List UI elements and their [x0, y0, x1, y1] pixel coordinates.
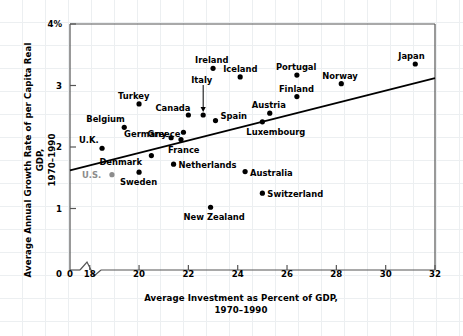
point-label-japan: Japan	[398, 51, 424, 61]
point-label-u-s: U.S.	[82, 170, 101, 180]
data-point-spain	[213, 118, 218, 123]
data-point-u-s	[109, 172, 114, 177]
y-tick-label-4: 4%	[36, 19, 62, 29]
point-label-switzerland: Switzerland	[267, 189, 323, 199]
x-tick-label-22: 22	[173, 269, 203, 279]
data-point-new-zealand	[208, 205, 213, 210]
point-label-portugal: Portugal	[276, 62, 317, 72]
x-axis-title-line1: Average Investment as Percent of GDP,	[96, 292, 386, 304]
point-label-sweden: Sweden	[120, 177, 157, 187]
data-point-australia	[243, 169, 248, 174]
point-label-greece: Greece	[147, 129, 180, 139]
x-axis-title-line2: 1970–1990	[96, 304, 386, 316]
point-label-luxembourg: Luxembourg	[246, 127, 305, 137]
point-label-australia: Australia	[250, 168, 293, 178]
data-point-switzerland	[260, 191, 265, 196]
data-point-japan	[413, 61, 418, 66]
x-tick-label-30: 30	[371, 269, 401, 279]
axes	[70, 24, 435, 276]
point-label-finland: Finland	[279, 84, 314, 94]
point-label-u-k: U.K.	[79, 135, 99, 145]
point-label-france: France	[168, 145, 200, 155]
data-point-u-k	[99, 146, 104, 151]
point-label-italy: Italy	[191, 75, 212, 85]
x-tick-label-20: 20	[124, 269, 154, 279]
x-tick-label-32: 32	[420, 269, 450, 279]
y-axis-title-line1: Average Annual Growth Rate of per Capita…	[22, 35, 46, 285]
data-point-norway	[339, 81, 344, 86]
x-tick-label-24: 24	[223, 269, 253, 279]
data-point-netherlands	[171, 162, 176, 167]
point-label-spain: Spain	[221, 111, 248, 121]
point-label-netherlands: Netherlands	[179, 160, 237, 170]
y-axis-title: Average Annual Growth Rate of per Capita…	[22, 35, 58, 285]
label-leader-lines	[201, 85, 206, 112]
point-label-norway: Norway	[322, 71, 357, 81]
x-axis-title: Average Investment as Percent of GDP, 19…	[96, 292, 386, 316]
point-label-denmark: Denmark	[99, 157, 142, 167]
point-label-canada: Canada	[155, 103, 190, 113]
data-point-italy	[201, 112, 206, 117]
data-point-greece	[181, 130, 186, 135]
point-label-austria: Austria	[252, 100, 286, 110]
point-label-turkey: Turkey	[118, 91, 149, 101]
data-point-canada	[186, 112, 191, 117]
data-point-finland	[294, 94, 299, 99]
x-tick-label-26: 26	[272, 269, 302, 279]
y-axis-title-line2: 1970–1990	[46, 35, 58, 285]
scatter-plot-figure: U.K.U.S.BelgiumTurkeySwedenDenmarkGerman…	[0, 0, 463, 336]
point-label-new-zealand: New Zealand	[184, 212, 245, 222]
data-point-turkey	[136, 101, 141, 106]
x-tick-label-28: 28	[321, 269, 351, 279]
point-label-iceland: Iceland	[223, 64, 257, 74]
data-point-austria	[267, 111, 272, 116]
point-label-belgium: Belgium	[86, 114, 125, 124]
data-point-ireland	[210, 66, 215, 71]
data-point-denmark	[149, 153, 154, 158]
data-point-sweden	[136, 170, 141, 175]
data-point-luxembourg	[260, 119, 265, 124]
data-point-portugal	[294, 72, 299, 77]
data-point-iceland	[238, 74, 243, 79]
